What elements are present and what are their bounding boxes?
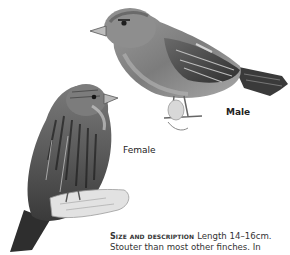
field-guide-page: Male Female Size and descriptionLength 1… [0, 0, 290, 255]
description-length: Length 14–16cm. [197, 231, 271, 241]
female-label: Female [123, 145, 156, 155]
male-label: Male [226, 107, 250, 117]
description-heading: Size and description [110, 232, 194, 241]
description-line-2: Stouter than most other finches. In [110, 242, 261, 252]
